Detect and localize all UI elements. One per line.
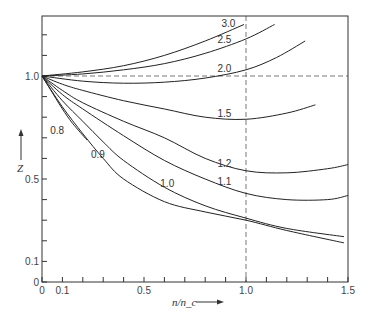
x-axis-ticks: 00.10.51.01.5 bbox=[39, 277, 355, 296]
curve-1-1 bbox=[42, 76, 348, 200]
curve-2-5 bbox=[42, 25, 275, 77]
curve-label: 1.1 bbox=[217, 176, 231, 187]
y-tick-label: 0.5 bbox=[25, 174, 39, 185]
x-tick-label: 1.5 bbox=[341, 285, 355, 296]
y-tick-label: 0 bbox=[33, 277, 39, 288]
y-tick-label: 1.0 bbox=[25, 71, 39, 82]
curve-label: 1.5 bbox=[217, 108, 231, 119]
x-axis-title: n/n_c bbox=[172, 296, 224, 308]
curve-label: 1.2 bbox=[217, 158, 231, 169]
x-tick-label: 0.1 bbox=[55, 285, 69, 296]
curve-label: 2.0 bbox=[217, 63, 231, 74]
x-axis-label: n/n_c bbox=[172, 296, 197, 308]
y-axis-ticks: 00.10.51.0 bbox=[25, 35, 47, 288]
x-tick-label: 0 bbox=[39, 285, 45, 296]
curve-label: 1.0 bbox=[160, 178, 174, 189]
curves bbox=[42, 25, 348, 243]
curve-label: 0.9 bbox=[91, 149, 105, 160]
curve-1-0 bbox=[42, 76, 344, 237]
y-tick-label: 0.1 bbox=[25, 256, 39, 267]
chart: 00.10.51.01.5 00.10.51.0 3.02.52.01.51.2… bbox=[0, 0, 369, 322]
curve-0-9 bbox=[42, 76, 344, 243]
y-axis-label: Z bbox=[17, 162, 24, 174]
x-tick-label: 1.0 bbox=[239, 285, 253, 296]
curve-1-2 bbox=[42, 76, 348, 173]
curve-label: 3.0 bbox=[222, 18, 236, 29]
x-axis-arrowhead-icon bbox=[217, 300, 224, 305]
y-axis-arrowhead-icon bbox=[19, 129, 24, 136]
curve-labels: 3.02.52.01.51.21.11.00.90.8 bbox=[50, 18, 236, 190]
curve-1-5 bbox=[42, 76, 315, 119]
y-axis-title: Z bbox=[17, 129, 24, 174]
x-tick-label: 0.5 bbox=[137, 285, 151, 296]
curve-label: 2.5 bbox=[217, 34, 231, 45]
curve-label: 0.8 bbox=[50, 125, 64, 136]
